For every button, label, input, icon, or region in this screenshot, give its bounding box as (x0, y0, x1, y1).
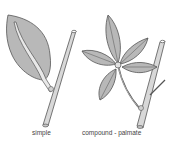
simple-stem-tip (72, 30, 76, 32)
leaf-diagram (0, 0, 171, 141)
simple-leaf-blade (7, 15, 51, 80)
compound-stem-base (137, 126, 143, 129)
label-simple: simple (32, 129, 51, 136)
simple-stem-base (43, 124, 49, 127)
label-compound-palmate: compound - palmate (82, 129, 141, 136)
simple-leaf-figure (7, 15, 77, 127)
compound-stem-tip (160, 40, 164, 42)
leaflet-top (106, 15, 120, 63)
compound-bud (139, 106, 144, 111)
compound-palmate-figure (82, 15, 165, 128)
leaflet-junction (115, 62, 121, 68)
simple-bud (49, 87, 54, 92)
